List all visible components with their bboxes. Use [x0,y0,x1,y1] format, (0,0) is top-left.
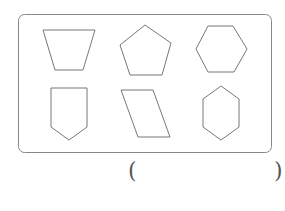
answer-open-paren: ( [128,160,137,182]
parallelogram-shape [121,90,170,137]
regular-pentagon-shape [120,25,171,75]
shield-pentagon-shape [51,88,87,140]
shapes-frame [19,15,272,153]
answer-blank[interactable] [142,162,272,186]
answer-close-paren: ) [274,160,283,182]
regular-hexagon-shape [196,26,247,72]
trapezoid-shape [43,30,95,70]
vertical-hexagon-shape [203,86,239,140]
